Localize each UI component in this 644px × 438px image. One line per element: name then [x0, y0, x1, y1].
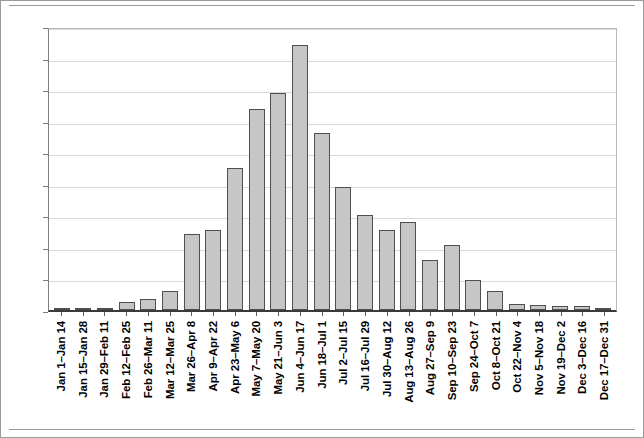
x-tick-label: Sep 10–Sep 23 [446, 321, 458, 400]
bar[interactable] [140, 299, 156, 310]
x-label-slot: Nov 5–Nov 18 [528, 319, 550, 423]
x-label-slot: Mar 26–Apr 8 [180, 319, 202, 423]
x-tick-mark [517, 312, 518, 316]
x-tick-label: Jul 16–Jul 29 [359, 321, 371, 391]
bar[interactable] [314, 133, 330, 310]
bar[interactable] [162, 291, 178, 310]
x-label-slot: Sep 10–Sep 23 [441, 319, 463, 423]
bar[interactable] [509, 304, 525, 310]
x-label-slot: Nov 19–Dec 2 [550, 319, 572, 423]
bar-slot [51, 29, 73, 310]
x-tick-slot [159, 312, 181, 317]
x-tick-label: Aug 13–Aug 26 [403, 321, 415, 403]
x-label-slot: Jan 15–Jan 28 [72, 319, 94, 423]
x-tick-label: Jan 15–Jan 28 [77, 321, 89, 398]
x-tick-mark [322, 312, 323, 316]
bar[interactable] [574, 306, 590, 310]
bar[interactable] [552, 306, 568, 310]
bar[interactable] [530, 305, 546, 310]
x-label-slot: Jan 1–Jan 14 [50, 319, 72, 423]
bar-slot [398, 29, 420, 310]
bar-slot [549, 29, 571, 310]
x-tick-label: Mar 12–Mar 25 [164, 321, 176, 399]
x-tick-mark [474, 312, 475, 316]
x-tick-mark [213, 312, 214, 316]
bar-slot [159, 29, 181, 310]
bar-series [49, 29, 616, 310]
x-label-slot: Mar 12–Mar 25 [159, 319, 181, 423]
bar-slot [311, 29, 333, 310]
x-label-slot: Jun 4–Jun 17 [289, 319, 311, 423]
bar[interactable] [249, 109, 265, 310]
bar[interactable] [270, 93, 286, 310]
x-tick-label: Jun 18–Jul 1 [316, 321, 328, 389]
bottom-divider-rule [9, 429, 635, 430]
x-tick-slot [224, 312, 246, 317]
x-tick-slot [72, 312, 94, 317]
bar-slot [441, 29, 463, 310]
bar-slot [94, 29, 116, 310]
x-tick-mark [83, 312, 84, 316]
bar[interactable] [97, 308, 113, 310]
x-label-slot: Aug 27–Sep 9 [419, 319, 441, 423]
x-tick-mark [496, 312, 497, 316]
bar-slot [571, 29, 593, 310]
bar-slot [116, 29, 138, 310]
x-tick-label: Oct 22–Nov 4 [511, 321, 523, 393]
x-tick-mark [256, 312, 257, 316]
x-tick-label: Dec 17–Dec 31 [598, 321, 610, 400]
x-tick-label: Jul 30–Aug 12 [381, 321, 393, 397]
bar[interactable] [292, 45, 308, 310]
x-tick-mark [170, 312, 171, 316]
x-label-slot: Apr 9–Apr 22 [202, 319, 224, 423]
x-label-slot: Oct 8–Oct 21 [485, 319, 507, 423]
x-tick-label: May 21–Jun 3 [272, 321, 284, 395]
bar-chart-figure: 050100150200250300350400450 Jan 1–Jan 14… [0, 0, 644, 438]
bar-slot [484, 29, 506, 310]
x-tick-mark [561, 312, 562, 316]
x-tick-slot [550, 312, 572, 317]
x-tick-label: Dec 3–Dec 16 [576, 321, 588, 394]
bar-slot [246, 29, 268, 310]
bar[interactable] [487, 291, 503, 310]
x-label-slot: Dec 3–Dec 16 [572, 319, 594, 423]
x-label-slot: Dec 17–Dec 31 [593, 319, 615, 423]
bar-slot [333, 29, 355, 310]
x-tick-mark [539, 312, 540, 316]
x-label-slot: Jul 2–Jul 15 [333, 319, 355, 423]
x-tick-slot [93, 312, 115, 317]
bar[interactable] [119, 302, 135, 310]
x-tick-label: Nov 5–Nov 18 [533, 321, 545, 395]
bar[interactable] [444, 245, 460, 310]
x-tick-slot [441, 312, 463, 317]
x-tick-label: Sep 24–Oct 7 [468, 321, 480, 392]
x-tick-slot [311, 312, 333, 317]
x-tick-slot [506, 312, 528, 317]
bar[interactable] [465, 280, 481, 310]
bar[interactable] [595, 308, 611, 310]
bar-slot [506, 29, 528, 310]
bar[interactable] [400, 222, 416, 310]
x-tick-mark [387, 312, 388, 316]
x-tick-slot [485, 312, 507, 317]
x-tick-mark [582, 312, 583, 316]
bar[interactable] [357, 215, 373, 310]
bar[interactable] [379, 230, 395, 310]
bar[interactable] [205, 230, 221, 310]
x-tick-slot [463, 312, 485, 317]
bar[interactable] [54, 308, 70, 310]
bar[interactable] [75, 308, 91, 310]
bar[interactable] [184, 234, 200, 310]
x-tick-label: Mar 26–Apr 8 [185, 321, 197, 392]
x-tick-mark [300, 312, 301, 316]
bar[interactable] [422, 260, 438, 310]
bar-slot [527, 29, 549, 310]
x-tick-slot [50, 312, 72, 317]
x-tick-slot [593, 312, 615, 317]
bar[interactable] [227, 168, 243, 310]
x-label-slot: May 7–May 20 [246, 319, 268, 423]
x-label-slot: May 21–Jun 3 [267, 319, 289, 423]
x-axis-tick-marks [48, 312, 617, 317]
bar-slot [268, 29, 290, 310]
bar[interactable] [335, 187, 351, 310]
